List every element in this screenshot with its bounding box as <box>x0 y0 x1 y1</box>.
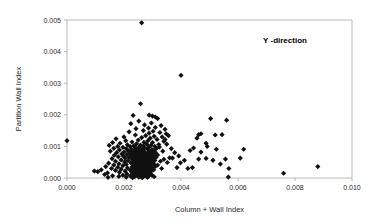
y-axis-title: Partition Wall Index <box>14 67 23 132</box>
y-tick-label: 0.002 <box>43 111 61 118</box>
x-tick-label: 0.006 <box>229 184 247 191</box>
x-axis-title: Column + Wall Index <box>175 205 244 214</box>
x-tick-label: 0.000 <box>58 184 76 191</box>
x-tick-label: 0.008 <box>286 184 304 191</box>
direction-annotation: Y -direction <box>263 36 307 45</box>
x-tick-label: 0.004 <box>172 184 190 191</box>
x-tick-label: 0.010 <box>343 184 361 191</box>
y-tick-label: 0.003 <box>43 80 61 87</box>
y-tick-label: 0.000 <box>43 175 61 182</box>
chart-screenshot: 0.0000.0010.0020.0030.0040.005 0.0000.00… <box>0 0 384 224</box>
y-tick-label: 0.004 <box>43 48 61 55</box>
scatter-chart: 0.0000.0010.0020.0030.0040.005 0.0000.00… <box>0 0 384 224</box>
y-tick-label: 0.005 <box>43 17 61 24</box>
x-tick-label: 0.002 <box>115 184 133 191</box>
y-tick-label: 0.001 <box>43 143 61 150</box>
